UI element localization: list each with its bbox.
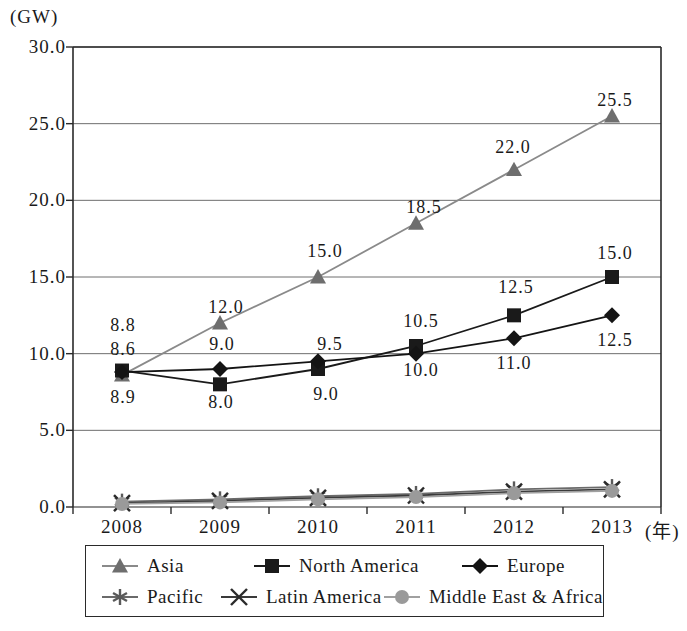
square-icon bbox=[605, 270, 619, 284]
circle-icon bbox=[605, 484, 619, 498]
legend-label: Latin America bbox=[266, 586, 382, 608]
asterisk-icon bbox=[100, 587, 140, 607]
legend-item-asia[interactable]: Asia bbox=[86, 555, 252, 577]
plot-area bbox=[0, 0, 687, 631]
legend-item-europe[interactable]: Europe bbox=[460, 555, 565, 577]
data-label: 8.6 bbox=[110, 339, 136, 360]
series-europe bbox=[114, 307, 620, 380]
legend-marker-glyph bbox=[100, 587, 140, 607]
triangle-icon bbox=[506, 162, 522, 176]
diamond-icon bbox=[460, 556, 500, 576]
data-label: 9.0 bbox=[313, 384, 339, 405]
legend-marker-glyph bbox=[219, 587, 259, 607]
triangle-icon bbox=[310, 269, 326, 283]
legend-label: Pacific bbox=[147, 586, 203, 608]
diamond-icon bbox=[604, 307, 620, 323]
legend-marker-glyph bbox=[252, 556, 292, 576]
data-label: 18.5 bbox=[406, 197, 442, 218]
data-label: 8.9 bbox=[110, 387, 136, 408]
data-label: 25.5 bbox=[597, 90, 633, 111]
legend-marker-glyph bbox=[100, 556, 140, 576]
circle-icon bbox=[409, 490, 423, 504]
series-line bbox=[122, 491, 612, 504]
legend-marker-glyph bbox=[382, 587, 422, 607]
circle-icon bbox=[382, 587, 422, 607]
series-line bbox=[122, 487, 612, 502]
data-label: 12.0 bbox=[208, 297, 244, 318]
legend-label: Asia bbox=[147, 555, 184, 577]
diamond-icon bbox=[472, 558, 488, 574]
diamond-icon bbox=[212, 361, 228, 377]
series-pacific bbox=[115, 479, 619, 510]
legend-row: AsiaNorth AmericaEurope bbox=[86, 550, 603, 581]
circle-icon bbox=[311, 492, 325, 506]
series-line bbox=[122, 489, 612, 503]
diamond-icon bbox=[506, 330, 522, 346]
cross-icon bbox=[219, 587, 259, 607]
square-icon bbox=[252, 556, 292, 576]
circle-icon bbox=[395, 590, 409, 604]
data-label: 10.5 bbox=[403, 311, 439, 332]
legend-row: PacificLatin AmericaMiddle East & Africa bbox=[86, 581, 603, 612]
data-label: 9.5 bbox=[317, 334, 343, 355]
legend-item-pacific[interactable]: Pacific bbox=[86, 586, 219, 608]
chart-legend: AsiaNorth AmericaEuropePacificLatin Amer… bbox=[85, 545, 604, 617]
data-label: 9.0 bbox=[209, 334, 235, 355]
legend-item-north-america[interactable]: North America bbox=[252, 555, 460, 577]
square-icon bbox=[507, 308, 521, 322]
data-label: 15.0 bbox=[307, 241, 343, 262]
data-label: 12.5 bbox=[597, 330, 633, 351]
data-label: 8.8 bbox=[110, 315, 136, 336]
data-label: 10.0 bbox=[403, 360, 439, 381]
line-chart: (GW) 0.05.010.015.020.025.030.0 20082009… bbox=[0, 0, 687, 631]
data-label: 11.0 bbox=[497, 353, 532, 374]
series-line bbox=[122, 116, 612, 375]
circle-icon bbox=[115, 497, 129, 511]
square-icon bbox=[265, 559, 279, 573]
data-label: 22.0 bbox=[495, 137, 531, 158]
data-label: 12.5 bbox=[498, 277, 534, 298]
series-asia bbox=[114, 108, 620, 382]
legend-label: Europe bbox=[507, 555, 565, 577]
legend-item-latin-america[interactable]: Latin America bbox=[219, 586, 382, 608]
series-line bbox=[122, 277, 612, 384]
legend-label: Middle East & Africa bbox=[429, 586, 603, 608]
triangle-icon bbox=[100, 556, 140, 576]
data-label: 15.0 bbox=[597, 243, 633, 264]
legend-marker-glyph bbox=[460, 556, 500, 576]
data-label: 8.0 bbox=[208, 392, 234, 413]
circle-icon bbox=[213, 495, 227, 509]
circle-icon bbox=[507, 486, 521, 500]
square-icon bbox=[213, 377, 227, 391]
legend-label: North America bbox=[299, 555, 419, 577]
legend-item-middle-east-africa[interactable]: Middle East & Africa bbox=[382, 586, 603, 608]
series-line bbox=[122, 315, 612, 372]
